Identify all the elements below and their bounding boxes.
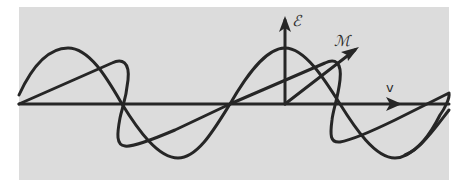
em-wave-diagram: ℰ ℳ v xyxy=(0,0,468,182)
magnetic-field-label: ℳ xyxy=(334,32,352,50)
velocity-label: v xyxy=(386,80,394,95)
